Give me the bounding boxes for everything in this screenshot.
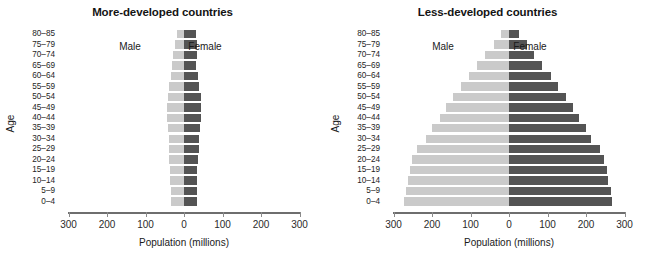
age-tick-label: 10–14 (32, 177, 55, 185)
bar-male (169, 82, 184, 90)
series-label-female: Female (188, 41, 221, 52)
x-axis-tick-label: 100 (137, 219, 154, 230)
age-tick-label: 30–34 (357, 135, 380, 143)
bar-male (167, 103, 184, 111)
bar-female (509, 103, 573, 111)
bar-male (453, 93, 509, 101)
bar-female (184, 176, 197, 184)
age-tick-label: 70–74 (32, 51, 55, 59)
bar-female (509, 72, 551, 80)
age-tick-label: 70–74 (357, 51, 380, 59)
bar-male (170, 176, 184, 184)
bar-female (184, 82, 199, 90)
age-tick-label: 40–44 (357, 114, 380, 122)
bar-female (184, 187, 197, 195)
age-tick-label: 10–14 (357, 177, 380, 185)
age-tick-label: 75–79 (32, 41, 55, 49)
bar-male (177, 30, 184, 38)
x-axis-tick-label: 300 (60, 219, 77, 230)
x-axis-tick (509, 212, 510, 217)
bar-male (168, 93, 184, 101)
bar-female (184, 103, 201, 111)
age-tick-label: 45–49 (357, 104, 380, 112)
plot-area: 80–8575–7970–7465–6960–6455–5950–5445–49… (325, 0, 650, 261)
x-axis-tick-label: 200 (424, 219, 441, 230)
bar-female (184, 93, 201, 101)
bar-male (494, 40, 509, 48)
age-tick-label: 0–4 (366, 198, 380, 206)
bar-female (509, 61, 542, 69)
age-tick-label: 25–29 (357, 145, 380, 153)
age-tick-label: 25–29 (32, 145, 55, 153)
x-axis-tick-label: 100 (214, 219, 231, 230)
bar-male (406, 187, 509, 195)
x-axis-tick (394, 212, 395, 217)
bar-male (169, 145, 184, 153)
bar-female (184, 30, 196, 38)
bar-male (432, 124, 509, 132)
bar-female (184, 124, 200, 132)
y-axis-title: Age (330, 115, 341, 133)
x-axis-tick-label: 0 (506, 219, 512, 230)
x-axis-tick (223, 212, 224, 217)
bar-male (485, 51, 509, 59)
age-tick-label: 60–64 (357, 72, 380, 80)
bar-male (170, 166, 184, 174)
bar-female (184, 145, 199, 153)
bar-female (509, 51, 534, 59)
x-axis-tick (300, 212, 301, 217)
x-axis-tick (146, 212, 147, 217)
age-tick-label: 5–9 (366, 187, 380, 195)
age-tick-label: 50–54 (357, 93, 380, 101)
age-tick-label: 35–39 (32, 124, 55, 132)
bar-female (509, 30, 519, 38)
x-axis-tick (432, 212, 433, 217)
bar-male (501, 30, 509, 38)
age-tick-label: 15–19 (357, 166, 380, 174)
age-tick-label: 75–79 (357, 41, 380, 49)
age-tick-label: 60–64 (32, 72, 55, 80)
x-axis-tick-label: 0 (181, 219, 187, 230)
bar-female (509, 197, 612, 205)
bar-female (184, 114, 201, 122)
age-tick-label: 35–39 (357, 124, 380, 132)
bar-male (175, 40, 184, 48)
bar-male (461, 82, 509, 90)
bar-female (509, 145, 600, 153)
bar-female (509, 114, 579, 122)
age-tick-label: 65–69 (357, 62, 380, 70)
x-axis-title: Population (millions) (464, 237, 554, 248)
bar-male (417, 145, 509, 153)
bar-male (171, 187, 184, 195)
bar-female (509, 166, 607, 174)
x-axis-tick-label: 100 (462, 219, 479, 230)
age-tick-label: 55–59 (32, 83, 55, 91)
age-tick-label: 65–69 (32, 62, 55, 70)
bar-male (404, 197, 509, 205)
x-axis-tick-label: 300 (616, 219, 633, 230)
x-axis-tick (471, 212, 472, 217)
x-axis-tick-label: 200 (253, 219, 270, 230)
plot-area: 80–8575–7970–7465–6960–6455–5950–5445–49… (0, 0, 325, 261)
age-tick-label: 30–34 (32, 135, 55, 143)
bar-male (426, 135, 509, 143)
x-axis-tick-label: 200 (578, 219, 595, 230)
x-axis-tick (548, 212, 549, 217)
x-axis-tick (586, 212, 587, 217)
bar-male (173, 51, 184, 59)
x-axis-tick (69, 212, 70, 217)
series-label-male: Male (432, 41, 454, 52)
x-axis-tick-label: 300 (291, 219, 308, 230)
age-tick-label: 20–24 (32, 156, 55, 164)
bar-male (171, 197, 184, 205)
age-tick-label: 15–19 (32, 166, 55, 174)
age-tick-label: 45–49 (32, 104, 55, 112)
x-axis-tick (625, 212, 626, 217)
bar-male (446, 103, 509, 111)
age-tick-label: 80–85 (357, 30, 380, 38)
series-label-male: Male (119, 41, 141, 52)
bar-female (184, 197, 197, 205)
bar-male (171, 72, 184, 80)
bar-male (440, 114, 509, 122)
bar-female (184, 61, 196, 69)
